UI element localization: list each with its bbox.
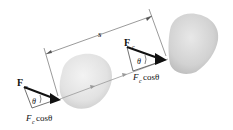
angle-label-left: θ — [32, 97, 36, 106]
angle-label-right: θ — [137, 57, 141, 66]
force-arrow-right — [155, 53, 167, 65]
svg-text:cosθ: cosθ — [36, 113, 52, 123]
svg-text:cosθ: cosθ — [143, 72, 159, 82]
body-initial — [60, 54, 112, 109]
component-label-left: F — [25, 113, 32, 123]
svg-text:c: c — [139, 78, 142, 84]
displacement-label: s — [98, 29, 102, 39]
svg-text:c: c — [132, 44, 135, 50]
body-final — [169, 14, 219, 74]
force-label-left: F — [17, 77, 23, 88]
path-arrow-right — [122, 73, 127, 77]
svg-text:c: c — [25, 84, 28, 90]
component-label-right: F — [132, 72, 139, 82]
force-arrow-left — [50, 93, 61, 104]
displacement-arrow-left — [46, 50, 52, 54]
svg-text:c: c — [32, 119, 35, 125]
displacement-arrow-right — [146, 16, 152, 21]
force-label-right: F — [124, 37, 130, 48]
force-triangle-right: F c θ F c cosθ — [124, 37, 167, 84]
extension-line-left — [44, 48, 58, 96]
work-diagram: s F c θ F c cosθ F c θ F c cosθ — [0, 0, 233, 130]
